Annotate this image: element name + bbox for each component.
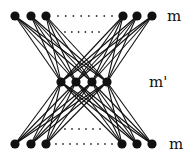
ellipsis-dot	[111, 143, 113, 145]
edge	[61, 16, 152, 82]
node-middle	[87, 77, 96, 86]
ellipsis-dot	[78, 128, 80, 130]
ellipsis-dot	[73, 15, 75, 17]
ellipsis-dot	[98, 31, 100, 33]
ellipsis-dot	[55, 143, 57, 145]
edge	[31, 16, 61, 82]
node-top	[118, 11, 127, 20]
node-top	[147, 11, 156, 20]
ellipsis-dot	[111, 15, 113, 17]
ellipsis-dot	[97, 143, 99, 145]
ellipsis-dot	[64, 31, 66, 33]
node-top	[41, 11, 50, 20]
ellipsis-dot	[57, 15, 59, 17]
ellipsis-dot	[78, 31, 80, 33]
ellipsis-dot	[96, 15, 98, 17]
ellipsis-dot	[88, 15, 90, 17]
edge	[61, 82, 152, 144]
node-top	[26, 11, 35, 20]
node-bottom	[41, 139, 50, 148]
node-top	[132, 11, 141, 20]
ellipsis-dot	[62, 143, 64, 145]
ellipsis-dot	[91, 31, 93, 33]
node-bottom	[117, 139, 126, 148]
ellipsis-dot	[92, 128, 94, 130]
ellipsis-dot	[90, 143, 92, 145]
ellipsis-dot	[104, 143, 106, 145]
ellipsis-dot	[103, 15, 105, 17]
ellipsis-dot	[99, 128, 101, 130]
edge	[46, 82, 76, 144]
node-middle	[71, 77, 80, 86]
ellipsis-dot	[83, 143, 85, 145]
ellipsis-dot	[69, 143, 71, 145]
ellipsis-dot	[80, 15, 82, 17]
ellipsis-dot	[64, 128, 66, 130]
node-top	[10, 11, 19, 20]
nodes	[10, 11, 156, 148]
edge	[31, 82, 61, 144]
ellipsis-dot	[65, 15, 67, 17]
bipartite-network-diagram: m m' m	[0, 0, 194, 157]
node-bottom	[10, 139, 19, 148]
edge	[46, 16, 107, 82]
node-middle	[56, 77, 65, 86]
label-top-m: m	[167, 7, 181, 25]
label-middle-m-prime: m'	[149, 73, 167, 91]
ellipsis-dot	[76, 143, 78, 145]
node-bottom	[147, 139, 156, 148]
ellipsis-dot	[85, 31, 87, 33]
node-bottom	[26, 139, 35, 148]
edge	[92, 82, 152, 144]
node-bottom	[132, 139, 141, 148]
edge	[92, 16, 152, 82]
label-bottom-m: m	[169, 135, 183, 153]
edge	[46, 16, 76, 82]
node-middle	[102, 77, 111, 86]
edge	[61, 82, 122, 144]
ellipsis-dot	[71, 128, 73, 130]
ellipsis-dot	[71, 31, 73, 33]
edge	[92, 16, 123, 82]
ellipsis-dot	[85, 128, 87, 130]
edges	[15, 16, 152, 144]
edge	[46, 82, 107, 144]
